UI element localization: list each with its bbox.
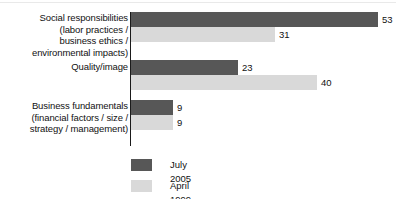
bar-value-label: 9: [177, 116, 182, 129]
legend-swatch-icon: [131, 180, 152, 192]
legend-swatch-icon: [131, 159, 152, 171]
category-label: Social responsibilities (labor practices…: [0, 12, 128, 58]
bar-value-label: 9: [177, 101, 182, 114]
bar-april-1999: [131, 75, 317, 90]
category-label-line: Social responsibilities: [0, 12, 128, 24]
bar-value-label: 40: [321, 76, 332, 89]
plot-area: Social responsibilities (labor practices…: [0, 8, 396, 146]
bar-april-1999: [131, 27, 275, 42]
bar-july-2005: [131, 60, 238, 75]
bar-july-2005: [131, 100, 173, 115]
legend-label: April 1999: [170, 179, 191, 199]
category-label-line: (labor practices /: [0, 24, 128, 36]
bar-chart: Social responsibilities (labor practices…: [0, 0, 396, 199]
category-label-line: (financial factors / size /: [0, 112, 128, 124]
category-label-line: Business fundamentals: [0, 100, 128, 112]
category-label-line: business ethics /: [0, 35, 128, 47]
category-label-line: environmental impacts): [0, 47, 128, 59]
category-label-line: Quality/image: [0, 61, 128, 73]
bar-july-2005: [131, 12, 378, 27]
category-label: Business fundamentals (financial factors…: [0, 100, 128, 135]
bar-value-label: 31: [279, 28, 290, 41]
top-divider: [0, 2, 396, 3]
bar-april-1999: [131, 115, 173, 130]
bar-value-label: 53: [382, 13, 393, 26]
category-label: Quality/image: [0, 61, 128, 73]
category-label-line: strategy / management): [0, 123, 128, 135]
bar-value-label: 23: [242, 61, 253, 74]
